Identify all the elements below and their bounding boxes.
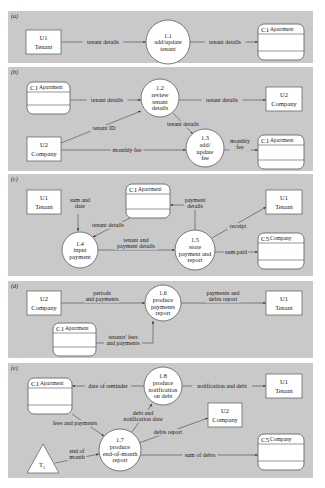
flow-label: debts report — [154, 429, 183, 435]
diagram-stage: (a)tenant detailstenant detailsU1Tenant1… — [0, 0, 325, 488]
panel-d: (d)periodsand paymentspayments anddebts … — [8, 281, 313, 358]
process-1-1: 1.1add/updatetenant — [146, 20, 190, 64]
flow-label: date of reminder — [88, 383, 128, 389]
external-entity: U2Company — [208, 403, 242, 427]
data-store: C1Apartment — [258, 135, 304, 169]
process-label: fee — [201, 154, 209, 161]
external-entity: U1Tenant — [26, 30, 61, 54]
data-store: C1Apartment — [28, 378, 72, 414]
flow-label: monthly fee — [113, 147, 142, 153]
store-id: C1 — [56, 325, 65, 333]
flow-label: end of — [69, 448, 84, 454]
flow-label: payment details — [117, 243, 155, 249]
process-1-7: 1.7produceend-of-monthreport — [99, 429, 141, 471]
process-label: tenant — [160, 45, 176, 52]
flow-label: tenant and — [124, 237, 149, 243]
process-label: report — [187, 256, 202, 263]
process-1-5: 1.5storepayment andreport — [175, 230, 215, 270]
flow-label: sum of debts — [185, 452, 216, 458]
panel-a: (a)tenant detailstenant detailsU1Tenant1… — [8, 11, 313, 64]
store-name: Company — [270, 436, 292, 442]
store-name: Company — [270, 235, 292, 241]
store-name: Apartment — [270, 137, 294, 143]
flow-label: fee — [236, 144, 244, 150]
panel-b: (b)tenant detailstenant detailstenant ID… — [8, 67, 313, 171]
data-store: C1Apartment — [27, 82, 70, 114]
entity-id: U1 — [280, 378, 288, 385]
entity-id: U2 — [280, 91, 288, 98]
flow-label: debt and — [133, 410, 154, 416]
entity-name: Tenant — [275, 203, 293, 210]
flow-label: tenants' fees — [108, 334, 138, 340]
entity-name: Company — [31, 304, 57, 311]
external-entity: U2Company — [27, 291, 61, 315]
external-entity: U1Tenant — [266, 374, 302, 398]
flow-label: tenant details — [206, 97, 238, 103]
process-1-2: 1.2reviewtenantdetails — [141, 79, 179, 117]
flow-label: tenant details — [92, 222, 124, 228]
flow-label: sum and — [70, 197, 90, 203]
flow-label: tenant details — [209, 39, 241, 45]
data-store: C5Company — [258, 233, 304, 269]
external-entity: U1Tenant — [27, 190, 61, 214]
data-store: C5Company — [258, 434, 304, 470]
panel-tag: (b) — [11, 69, 18, 76]
flow-label: and payments — [85, 296, 119, 302]
flow-label: and payments — [106, 340, 140, 346]
trigger-subscript: 1 — [43, 465, 45, 470]
process-label: on debt — [154, 392, 173, 399]
process-label: report — [155, 309, 170, 316]
entity-name: Company — [212, 416, 238, 423]
store-id: C5 — [261, 235, 270, 243]
process-label: payment — [69, 253, 91, 260]
store-name: Apartment — [65, 325, 89, 331]
store-name: Apartment — [270, 26, 294, 32]
panel-tag: (a) — [11, 13, 18, 20]
entity-id: U2 — [40, 141, 48, 148]
external-entity: U2Company — [266, 87, 302, 111]
panel-c: (c)sum anddatetenant detailstenant andpa… — [8, 174, 313, 276]
process-1-8: 1.8producenotificationon debt — [144, 367, 182, 405]
entity-id: U1 — [40, 194, 48, 201]
flow-label: fees and payments — [53, 420, 98, 426]
flow-label: payments and — [206, 290, 239, 296]
flow-label: notification and debt — [197, 383, 247, 389]
panel-tag: (e) — [11, 365, 18, 372]
external-entity: U2Company — [27, 137, 61, 161]
flow-label: payment — [185, 197, 206, 203]
flow-label: notification date — [123, 416, 162, 422]
data-flow-diagram: (a)tenant detailstenant detailsU1Tenant1… — [0, 0, 325, 488]
entity-id: U2 — [221, 407, 229, 414]
external-entity: U1Tenant — [266, 291, 302, 315]
data-store: C1Apartment — [53, 323, 96, 356]
flow-label: details — [187, 203, 203, 209]
flow-label: month — [69, 454, 84, 460]
flow-label: tenant details — [91, 97, 123, 103]
store-id: C1 — [31, 380, 40, 388]
flow-label: sum paid — [225, 249, 247, 255]
store-id: C1 — [261, 26, 270, 34]
flow-label: date — [75, 203, 85, 209]
panel-tag: (d) — [11, 283, 18, 290]
store-name: Apartment — [40, 380, 64, 386]
entity-name: Tenant — [35, 203, 53, 210]
entity-name: Tenant — [275, 387, 293, 394]
entity-id: U1 — [280, 194, 288, 201]
entity-name: Company — [31, 150, 57, 157]
entity-id: U2 — [40, 295, 48, 302]
flow-label: monthly — [230, 138, 250, 144]
store-id: C1 — [30, 84, 39, 92]
flow-label: tenant ID — [93, 125, 116, 131]
external-entity: U1Tenant — [266, 190, 302, 214]
process-label: report — [112, 456, 127, 463]
flow-label: tenant details — [87, 39, 119, 45]
data-store: C1Apartment — [126, 184, 170, 218]
entity-name: Tenant — [275, 304, 293, 311]
panel-tag: (c) — [11, 176, 18, 183]
data-store: C1Apartment — [258, 24, 304, 60]
store-id: C1 — [129, 186, 138, 194]
flow-label: tenant details — [167, 121, 199, 127]
entity-id: U1 — [280, 295, 288, 302]
process-1-6: 1.6producepaymentsreport — [145, 285, 181, 321]
entity-name: Tenant — [35, 43, 53, 50]
